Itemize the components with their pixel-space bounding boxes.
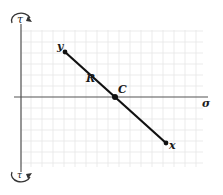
- tau-label-bottom: τ: [17, 170, 23, 180]
- label-r: R: [85, 72, 95, 85]
- mohr-circle-diagram: τ τ σ y R C x: [0, 0, 223, 195]
- grid: [21, 30, 203, 167]
- sigma-label: σ: [202, 97, 211, 110]
- tau-label-top: τ: [17, 13, 24, 26]
- label-c: C: [118, 83, 127, 96]
- point-x: [164, 141, 169, 146]
- label-x: x: [168, 139, 176, 152]
